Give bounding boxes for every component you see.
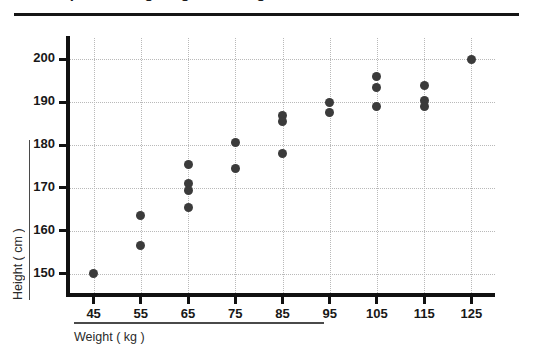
data-point — [136, 241, 145, 250]
data-point — [420, 81, 429, 90]
data-point — [89, 269, 98, 278]
scatter-plot-figure: Scatter plot of Height against Weight He… — [0, 0, 535, 360]
gridline-horizontal — [70, 145, 495, 146]
gridline-horizontal — [70, 231, 495, 232]
data-point — [467, 55, 476, 64]
x-axis-tick — [281, 297, 284, 304]
y-axis-tick — [59, 229, 67, 232]
gridline-horizontal — [70, 188, 495, 189]
y-axis-tick — [59, 186, 67, 189]
gridline-vertical — [141, 38, 142, 295]
y-axis-tick-label: 190 — [0, 93, 55, 108]
gridline-vertical — [330, 38, 331, 295]
data-point — [136, 211, 145, 220]
gridline-vertical — [283, 38, 284, 295]
data-point — [372, 102, 381, 111]
x-axis-tick — [423, 297, 426, 304]
gridline-vertical — [424, 38, 425, 295]
x-axis-tick — [139, 297, 142, 304]
y-axis-tick — [59, 58, 67, 61]
y-axis-tick-label: 170 — [0, 179, 55, 194]
data-point — [184, 160, 193, 169]
title-divider-rule — [14, 13, 519, 16]
x-axis-title-group: Weight ( kg ) — [74, 322, 324, 344]
y-axis-tick-label: 150 — [0, 265, 55, 280]
x-axis-tick — [187, 297, 190, 304]
figure-title-clipped-region: Scatter plot of Height against Weight — [0, 0, 535, 5]
data-point — [372, 72, 381, 81]
data-point — [278, 149, 287, 158]
y-axis-line — [66, 36, 70, 297]
y-axis-tick-label: 160 — [0, 222, 55, 237]
y-axis-tick-label: 180 — [0, 136, 55, 151]
data-point — [325, 98, 334, 107]
y-axis-tick — [59, 144, 67, 147]
data-point — [372, 83, 381, 92]
gridline-vertical — [94, 38, 95, 295]
figure-title: Scatter plot of Height against Weight — [0, 0, 535, 2]
data-point — [184, 203, 193, 212]
y-axis-tick-label: 200 — [0, 50, 55, 65]
data-point — [420, 102, 429, 111]
gridline-horizontal — [70, 274, 495, 275]
x-axis-tick — [328, 297, 331, 304]
y-axis-tick — [59, 101, 67, 104]
data-point — [184, 186, 193, 195]
x-axis-tick — [375, 297, 378, 304]
gridline-horizontal — [70, 102, 495, 103]
plot-area — [70, 38, 495, 295]
data-point — [278, 117, 287, 126]
x-axis-tick-label: 125 — [441, 306, 501, 321]
x-axis-title-rule — [74, 322, 324, 324]
data-point — [325, 108, 334, 117]
x-axis-tick — [470, 297, 473, 304]
data-point — [231, 138, 240, 147]
x-axis-tick — [92, 297, 95, 304]
x-axis-title: Weight ( kg ) — [74, 330, 324, 344]
data-point — [231, 164, 240, 173]
x-axis-tick — [234, 297, 237, 304]
gridline-horizontal — [70, 59, 495, 60]
y-axis-tick — [59, 272, 67, 275]
gridline-vertical — [471, 38, 472, 295]
